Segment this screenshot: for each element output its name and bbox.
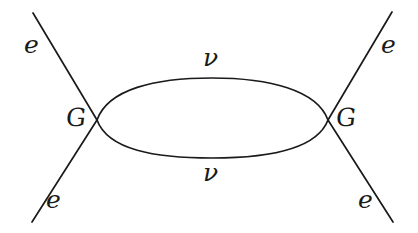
label-vertex-right: G — [334, 105, 357, 130]
label-electron-bottom-right: e — [358, 187, 373, 212]
label-neutrino-bottom: ν — [203, 160, 218, 185]
neutrino-loop — [97, 78, 328, 158]
label-electron-top-right: e — [381, 32, 396, 57]
leg-bottom-left-line — [32, 120, 97, 222]
label-neutrino-top: ν — [203, 45, 218, 70]
neutrino-loop-upper-arc — [97, 78, 328, 120]
feynman-diagram-canvas: e e e e ν ν G G — [0, 0, 418, 233]
label-electron-top-left: e — [24, 32, 39, 57]
label-vertex-left: G — [64, 105, 87, 130]
label-electron-bottom-left: e — [46, 187, 61, 212]
neutrino-loop-lower-arc — [97, 120, 328, 158]
